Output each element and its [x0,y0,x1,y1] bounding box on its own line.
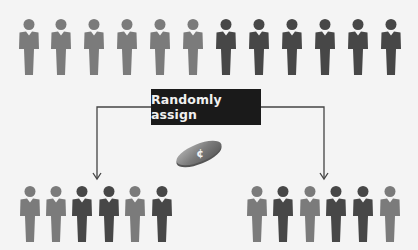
group-a-person-icon-light [124,186,146,242]
population-person-icon-dark [314,19,336,75]
population-person-icon-dark [215,19,237,75]
group-a-person-icon-dark [151,186,173,242]
group-b-person-icon-light [299,186,321,242]
population-person-icon-light [50,19,72,75]
population-person-icon-light [83,19,105,75]
group-a-person-icon-dark [98,186,120,242]
population-person-icon-dark [347,19,369,75]
group-a-person-icon-light [19,186,41,242]
randomly-assign-label: Randomly assign [151,89,261,125]
group-b-person-icon-dark [272,186,294,242]
population-person-icon-dark [248,19,270,75]
group-b-person-icon-light [379,186,401,242]
group-a-person-icon-dark [71,186,93,242]
population-person-icon-dark [281,19,303,75]
population-person-icon-light [182,19,204,75]
population-person-icon-light [18,19,40,75]
group-a-person-icon-light [45,186,67,242]
population-person-icon-light [149,19,171,75]
group-b-person-icon-dark [325,186,347,242]
group-b-person-icon-dark [352,186,374,242]
svg-text:¢: ¢ [196,147,204,160]
group-b-person-icon-light [246,186,268,242]
population-person-icon-light [116,19,138,75]
randomly-assign-text: Randomly assign [151,92,261,122]
coin-icon: ¢ [173,138,225,168]
population-person-icon-dark [380,19,402,75]
